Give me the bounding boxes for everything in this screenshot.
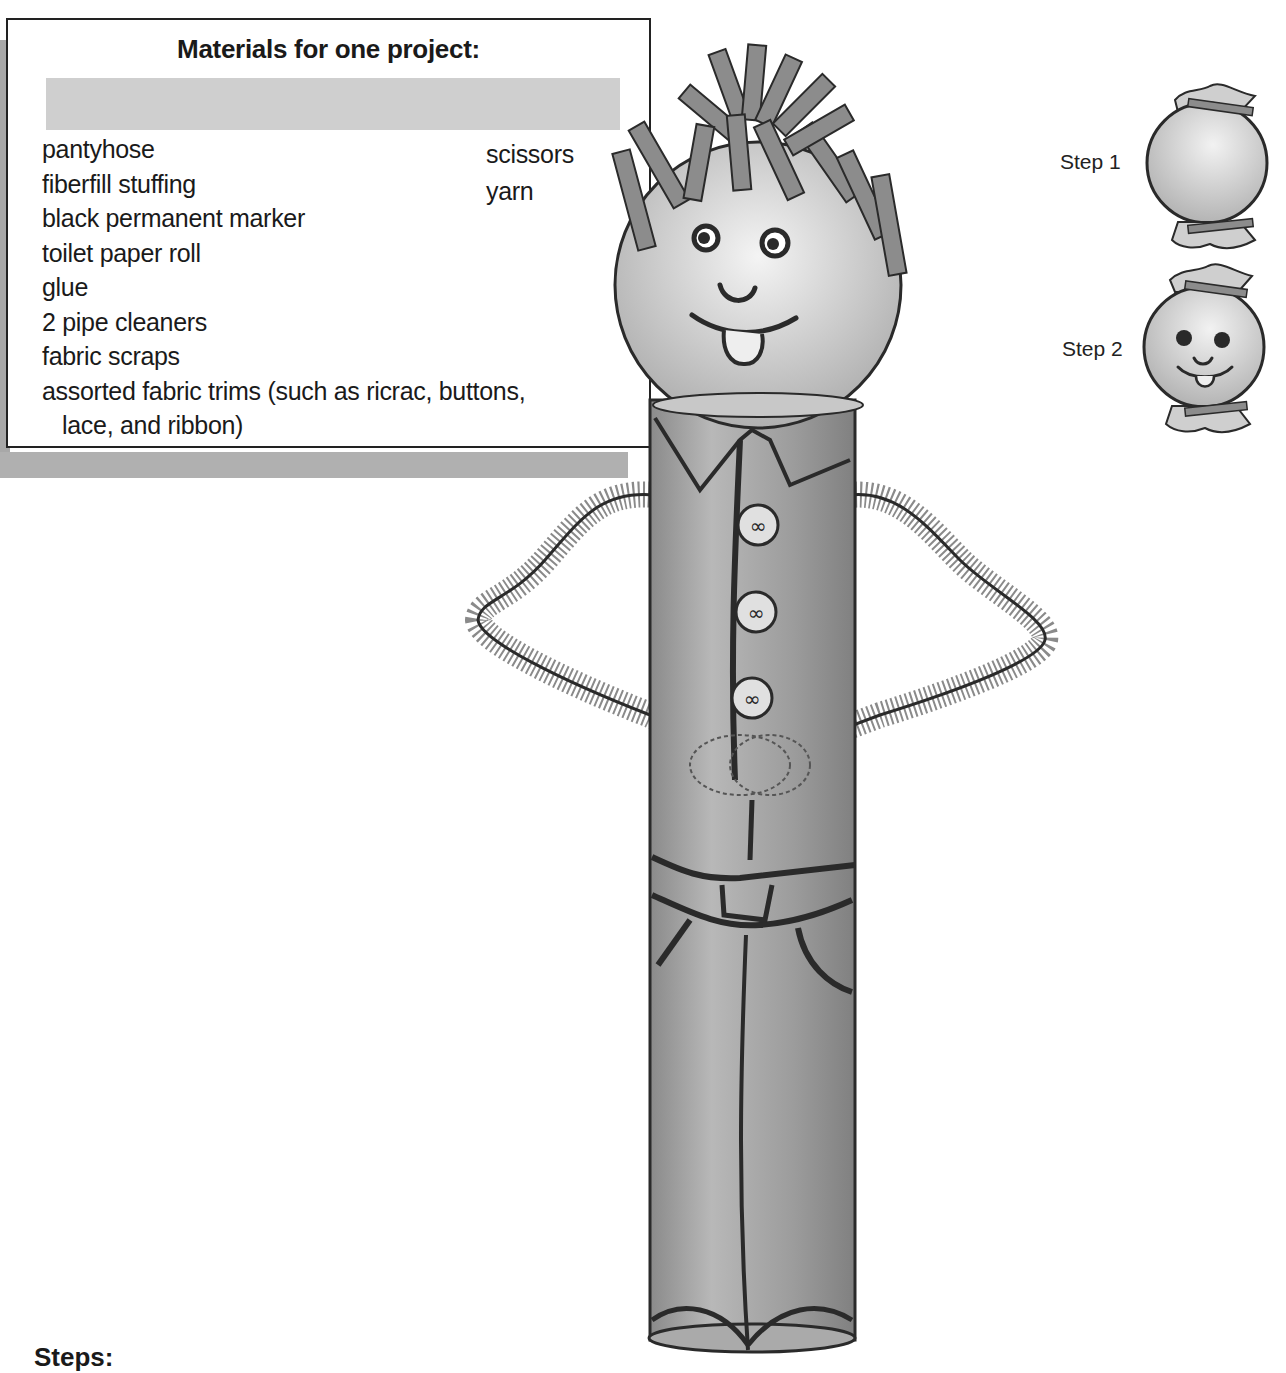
step1-stuffed-ball bbox=[1147, 84, 1267, 248]
svg-text:∞: ∞ bbox=[748, 601, 765, 625]
steps-heading: Steps: bbox=[34, 1342, 113, 1373]
button-icon: ∞ bbox=[732, 678, 772, 718]
step2-ball-with-face bbox=[1144, 264, 1264, 432]
step1-label: Step 1 bbox=[1060, 150, 1121, 174]
button-icon: ∞ bbox=[736, 592, 776, 632]
svg-text:∞: ∞ bbox=[750, 514, 767, 538]
button-icon: ∞ bbox=[738, 505, 778, 545]
toilet-roll-body: ∞ ∞ ∞ bbox=[649, 400, 855, 1352]
svg-text:∞: ∞ bbox=[744, 687, 761, 711]
step2-label: Step 2 bbox=[1062, 337, 1123, 361]
